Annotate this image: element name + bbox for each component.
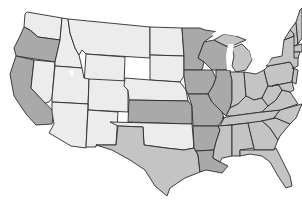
state-nm: New Mexico <box>86 110 118 147</box>
state-ct: Connecticut <box>294 52 300 58</box>
state-ne: Nebraska <box>124 78 188 101</box>
state-fl: Florida <box>240 148 292 188</box>
states-layer: WashingtonOregonCaliforniaNevadaIdahoMon… <box>10 8 302 196</box>
us-map: WashingtonOregonCaliforniaNevadaIdahoMon… <box>0 0 302 203</box>
state-az: Arizona <box>49 102 88 148</box>
state-ny: New York <box>266 36 298 68</box>
state-co: Colorado <box>88 79 128 112</box>
state-sd: South Dakota <box>150 55 184 82</box>
state-nd: North Dakota <box>150 27 184 56</box>
state-ks: Kansas <box>128 100 192 124</box>
us-map-svg: WashingtonOregonCaliforniaNevadaIdahoMon… <box>0 0 302 203</box>
state-mt: Montana <box>68 19 150 58</box>
